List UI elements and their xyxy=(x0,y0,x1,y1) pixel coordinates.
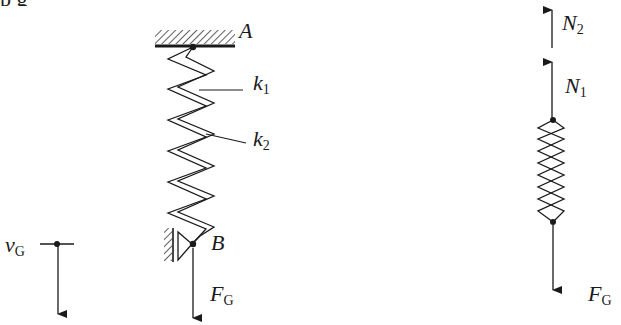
label-k1: k1 xyxy=(253,72,270,101)
label-fg-left: FG xyxy=(210,283,234,312)
diagram-canvas: p g xyxy=(0,0,621,325)
label-b: B xyxy=(211,232,224,254)
label-vg: vG xyxy=(5,234,25,263)
free-body-spring xyxy=(538,117,564,225)
label-k2: k2 xyxy=(253,128,270,157)
cut-header-text: p g xyxy=(0,0,621,6)
velocity-vg-indicator xyxy=(40,241,74,314)
label-n1: N1 xyxy=(565,75,587,104)
guide-support-b xyxy=(164,228,196,262)
mechanics-drawing xyxy=(0,0,621,325)
label-n2: N2 xyxy=(562,12,584,41)
header-fragment: p g xyxy=(0,0,28,6)
k2-leader-line xyxy=(206,134,246,143)
label-a: A xyxy=(239,20,252,42)
label-fg-right: FG xyxy=(588,283,612,312)
fixed-support-a xyxy=(155,30,235,50)
